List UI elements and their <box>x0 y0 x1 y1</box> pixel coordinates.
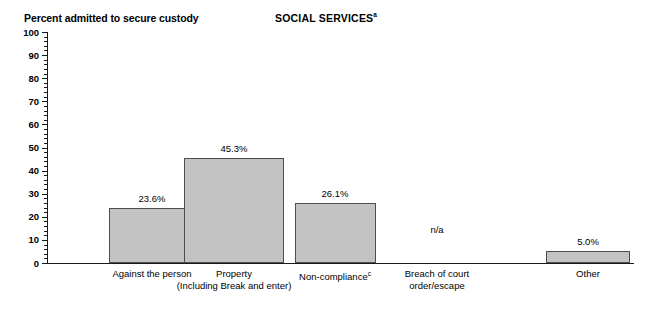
y-tick-minor <box>44 46 47 47</box>
y-tick-minor <box>44 111 47 112</box>
y-tick-minor <box>44 258 47 259</box>
y-tick-label: 80 <box>9 74 39 83</box>
plot-area: 1009080706050403020100 23.6%45.3%26.1%n/… <box>47 32 634 263</box>
x-axis-line <box>47 263 634 264</box>
y-tick-major <box>42 171 47 172</box>
chart-figure: Percent admitted to secure custody SOCIA… <box>0 0 647 310</box>
y-tick-minor <box>44 208 47 209</box>
y-tick-minor <box>44 157 47 158</box>
y-tick-label: 10 <box>9 235 39 244</box>
y-tick-minor <box>44 115 47 116</box>
y-tick-minor <box>44 134 47 135</box>
bar-value-label: 45.3% <box>159 144 309 154</box>
y-tick-minor <box>44 212 47 213</box>
y-tick-minor <box>44 189 47 190</box>
y-tick-major <box>42 240 47 241</box>
y-tick-major <box>42 148 47 149</box>
bar-value-label: 5.0% <box>513 237 647 247</box>
y-tick-major <box>42 55 47 56</box>
y-tick-minor <box>44 221 47 222</box>
y-tick-major <box>42 194 47 195</box>
y-tick-minor <box>44 198 47 199</box>
y-tick-minor <box>44 235 47 236</box>
y-tick-minor <box>44 138 47 139</box>
y-axis-labels: 1009080706050403020100 <box>7 32 39 263</box>
y-tick-label: 70 <box>9 97 39 106</box>
y-tick-label: 20 <box>9 212 39 221</box>
chart-title: SOCIAL SERVICESa <box>275 11 377 24</box>
y-tick-minor <box>44 226 47 227</box>
y-tick-minor <box>44 161 47 162</box>
y-tick-minor <box>44 231 47 232</box>
y-tick-major <box>42 263 47 264</box>
bar <box>546 251 630 263</box>
category-label-line2: order/escape <box>362 280 512 292</box>
y-tick-minor <box>44 254 47 255</box>
y-tick-minor <box>44 37 47 38</box>
y-tick-minor <box>44 97 47 98</box>
category-label-line1: Non-compliance <box>299 271 368 282</box>
bar-value-na-label: n/a <box>362 225 512 235</box>
y-tick-label: 30 <box>9 189 39 198</box>
y-tick-major <box>42 78 47 79</box>
chart-title-text: SOCIAL SERVICES <box>275 12 373 24</box>
category-label-line1: Property <box>216 268 252 279</box>
y-tick-minor <box>44 69 47 70</box>
category-label-line1: Breach of court <box>405 268 469 279</box>
y-tick-minor <box>44 129 47 130</box>
y-tick-minor <box>44 83 47 84</box>
y-tick-label: 60 <box>9 120 39 129</box>
y-tick-minor <box>44 166 47 167</box>
y-tick-minor <box>44 180 47 181</box>
y-tick-minor <box>44 184 47 185</box>
x-axis-category-label: Other <box>513 268 647 280</box>
y-tick-minor <box>44 64 47 65</box>
y-tick-minor <box>44 120 47 121</box>
x-axis-category-label: Breach of courtorder/escape <box>362 268 512 291</box>
y-tick-minor <box>44 143 47 144</box>
y-tick-label: 40 <box>9 166 39 175</box>
y-tick-minor <box>44 74 47 75</box>
chart-title-superscript: a <box>373 11 377 18</box>
y-tick-minor <box>44 60 47 61</box>
y-tick-minor <box>44 203 47 204</box>
y-tick-minor <box>44 87 47 88</box>
y-tick-label: 100 <box>9 28 39 37</box>
y-tick-minor <box>44 152 47 153</box>
y-tick-minor <box>44 92 47 93</box>
y-tick-label: 50 <box>9 143 39 152</box>
bar-value-label: 26.1% <box>260 189 410 199</box>
y-tick-major <box>42 217 47 218</box>
y-tick-label: 0 <box>9 259 39 268</box>
y-tick-minor <box>44 245 47 246</box>
y-tick-label: 90 <box>9 51 39 60</box>
y-tick-minor <box>44 175 47 176</box>
y-axis-line <box>47 32 48 263</box>
bar <box>109 208 195 263</box>
category-label-line1: Other <box>576 268 600 279</box>
y-axis-caption: Percent admitted to secure custody <box>24 12 199 24</box>
y-tick-minor <box>44 41 47 42</box>
bar-value-label: 23.6% <box>77 194 227 204</box>
y-tick-minor <box>44 249 47 250</box>
y-tick-major <box>42 124 47 125</box>
bar <box>184 158 284 263</box>
y-tick-minor <box>44 106 47 107</box>
y-tick-minor <box>44 50 47 51</box>
y-tick-major <box>42 32 47 33</box>
y-tick-major <box>42 101 47 102</box>
